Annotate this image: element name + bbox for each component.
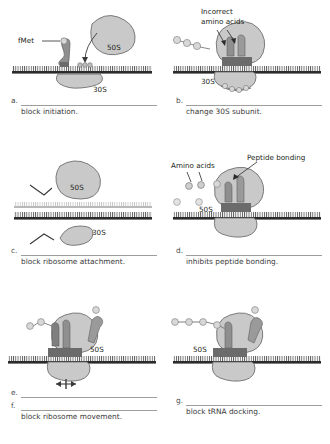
panel-a: fMet 50S 30S a. block initiation. — [0, 0, 165, 148]
panel-b-caption: b. change 30S subunit. — [165, 96, 330, 117]
panel-d: Amino acids Peptide bonding 50S d. inhib… — [165, 150, 330, 298]
panel-c-letter: c. — [11, 246, 19, 256]
free-amino-acids — [174, 181, 221, 206]
large-subunit-label: 50S — [107, 43, 121, 52]
small-subunit-label: 30S — [92, 228, 106, 237]
panel-a-caption: a. block initiation. — [0, 96, 165, 117]
mrna-strand — [12, 66, 152, 74]
panel-c-caption: c. block ribosome attachment. — [0, 246, 165, 267]
mrna-strand — [14, 212, 152, 220]
trna-shape-2 — [63, 320, 70, 348]
panel-d-letter: d. — [176, 246, 184, 256]
block-chevron-upper — [30, 185, 52, 195]
panel-e-blank-line[interactable] — [21, 390, 157, 398]
block-chevron-lower — [30, 234, 54, 244]
panel-d-answer-row: d. — [165, 246, 330, 256]
panel-c-answer-text: block ribosome attachment. — [0, 256, 165, 267]
amino-acid-bead-1 — [27, 323, 34, 330]
amino-acid-bead-3 — [93, 307, 100, 314]
small-subunit-shape — [214, 218, 257, 237]
large-subunit-label: 50S — [70, 183, 84, 192]
large-subunit-label: 50S — [90, 345, 104, 354]
amino-acid-bead-2 — [38, 319, 45, 326]
panel-g-illustration: 50S — [165, 300, 330, 405]
large-subunit-shape — [56, 161, 101, 199]
fmet-label: fMet — [18, 36, 34, 45]
panel-f-answer-row: f. — [0, 401, 165, 411]
trna-shape-1 — [51, 323, 59, 346]
panel-a-letter: a. — [11, 96, 19, 106]
panel-a-answer-row: a. — [0, 96, 165, 106]
codon-region — [222, 57, 252, 66]
panel-ef-caption: e. f. block ribosome movement. — [0, 388, 165, 422]
polypeptide-chain — [172, 319, 227, 330]
panel-a-blank-line[interactable] — [21, 98, 157, 106]
panel-b-blank-line[interactable] — [186, 98, 322, 106]
codon-region — [221, 203, 251, 212]
panel-e-answer-row: e. — [0, 388, 165, 398]
panel-d-caption: d. inhibits peptide bonding. — [165, 246, 330, 267]
small-subunit-shape — [47, 362, 90, 381]
panel-g-blank-line[interactable] — [186, 398, 322, 406]
panel-ef-answer-text: block ribosome movement. — [0, 411, 165, 422]
incorrect-amino-acid-chain — [173, 36, 210, 49]
small-subunit-shape — [214, 72, 256, 90]
large-subunit-label: 50S — [199, 205, 213, 214]
incorrect-amino-acids-label-line2: amino acids — [201, 17, 245, 26]
small-subunit-label: 30S — [201, 77, 215, 86]
panel-g-caption: g. block tRNA docking. — [165, 396, 330, 417]
amino-acid-bead — [252, 307, 259, 314]
panel-g-answer-text: block tRNA docking. — [165, 406, 330, 417]
panel-g-letter: g. — [176, 396, 184, 406]
trna-shape-1 — [225, 322, 232, 348]
panel-d-answer-text: inhibits peptide bonding. — [165, 256, 330, 267]
panel-a-illustration: fMet 50S 30S — [0, 0, 165, 105]
assembly-arrowhead — [82, 57, 88, 63]
codon-region — [213, 348, 247, 357]
trna-shape-2 — [237, 176, 244, 202]
trna-shape-1 — [225, 182, 232, 202]
panel-c-blank-line[interactable] — [21, 248, 157, 256]
peptide-bonding-label: Peptide bonding — [247, 153, 305, 162]
panel-b-answer-row: b. — [165, 96, 330, 106]
panel-b-letter: b. — [176, 96, 184, 106]
panel-a-answer-text: block initiation. — [0, 106, 165, 117]
panel-e-letter: e. — [11, 388, 19, 398]
panel-f-blank-line[interactable] — [21, 403, 157, 411]
worksheet-figure: fMet 50S 30S a. block initiation. — [0, 0, 330, 444]
panel-b-answer-text: change 30S subunit. — [165, 106, 330, 117]
panel-f-letter: f. — [11, 401, 19, 411]
amino-acids-leader-2 — [199, 172, 202, 181]
panel-c-illustration: 50S 30S — [0, 150, 165, 255]
amino-acids-label: Amino acids — [171, 161, 215, 170]
mrna-ghost-strand — [14, 202, 152, 208]
small-subunit-shape — [212, 362, 255, 381]
large-subunit-label: 50S — [193, 345, 207, 354]
codon-region — [48, 348, 82, 357]
trna-shape-2 — [238, 35, 245, 56]
panel-d-illustration: Amino acids Peptide bonding 50S — [165, 150, 330, 255]
panel-b: Incorrect amino acids 30S b. change 30S … — [165, 0, 330, 148]
amino-acids-leader-1 — [187, 172, 191, 182]
incorrect-amino-acids-label-line1: Incorrect — [201, 7, 233, 16]
panel-ef: 50S e. f. block ribosome movement. — [0, 300, 165, 444]
panel-b-illustration: Incorrect amino acids 30S — [165, 0, 330, 105]
small-subunit-shape — [60, 226, 93, 245]
panel-c-answer-row: c. — [0, 246, 165, 256]
panel-c: 50S 30S c. block ribosome attachment. — [0, 150, 165, 298]
small-subunit-label: 30S — [93, 85, 107, 94]
fmet-bead — [61, 38, 67, 44]
panel-g: 50S g. block tRNA docking. — [165, 300, 330, 444]
panel-g-answer-row: g. — [165, 396, 330, 406]
panel-d-blank-line[interactable] — [186, 248, 322, 256]
